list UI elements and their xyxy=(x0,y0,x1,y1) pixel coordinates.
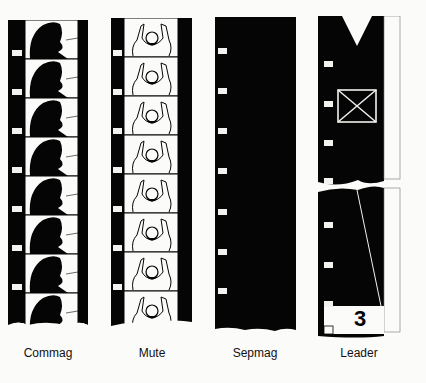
leader-label: Leader xyxy=(314,346,404,360)
commag-label: Commag xyxy=(3,346,93,360)
leader-strip-graphic xyxy=(318,16,402,340)
commag-film-strip xyxy=(8,20,90,335)
mute-film-strip xyxy=(111,18,193,333)
sepmag-film-strip xyxy=(215,17,297,333)
sepmag-strip-graphic xyxy=(215,17,297,333)
leader-countdown-number: 3 xyxy=(348,306,372,332)
leader-film-strip: 3 xyxy=(318,16,402,340)
sepmag-label: Sepmag xyxy=(210,346,300,360)
mute-label: Mute xyxy=(107,346,197,360)
commag-strip-graphic xyxy=(8,20,90,335)
mute-strip-graphic xyxy=(111,18,193,333)
